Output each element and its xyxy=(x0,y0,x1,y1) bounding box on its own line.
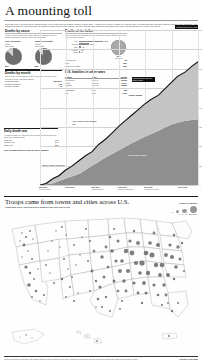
inset-hawaii xyxy=(76,331,102,343)
x-tick-label: Sept. 2005 xyxy=(178,186,187,188)
y-tick-label: 1,250 xyxy=(199,87,203,89)
us-map-svg xyxy=(2,213,200,333)
series-label-non-hostile: Non-hostile deaths xyxy=(128,154,146,156)
annotation-falluja: Falluja offensive drives toll sharply hi… xyxy=(132,77,156,82)
page-title: A mounting toll xyxy=(5,3,197,18)
x-tick-label: Mar. 2004 Falluja offensive xyxy=(92,186,104,190)
footer: Sources: Department of Defense; Iraq Coa… xyxy=(4,356,198,360)
annotation-baghdad-falls: Troop deaths rise after Baghdad falls xyxy=(72,120,100,125)
pace-stat-label-2: Monthly average xyxy=(5,85,19,88)
x-tick-label: Sept. 2004 Election of assembly xyxy=(118,186,133,190)
x-tick-text: Sept. 2003 xyxy=(65,186,74,188)
pie-chart-first xyxy=(5,48,22,65)
state-outlines xyxy=(12,218,192,317)
map-section: Troops came from towns and cities across… xyxy=(0,196,202,362)
credit-line: THE NEW YORK TIMES xyxy=(179,358,198,360)
insets-svg xyxy=(4,326,194,348)
map-insets xyxy=(4,326,194,348)
x-tick-label: Mar. 2003 Invasion begins xyxy=(39,186,51,190)
y-tick-label: 500 xyxy=(199,145,203,147)
pie-cell-first: First 1,000 deaths Hostile Non-hostile 8… xyxy=(5,40,31,67)
x-tick-text: Sept. 2005 xyxy=(178,186,187,188)
x-tick-sub: Constitution drafted xyxy=(144,188,159,190)
cumulative-deaths-chart: 0 250 500 750 1,000 1,250 1,500 1,750 2,… xyxy=(40,30,198,185)
inset-alaska xyxy=(12,329,44,344)
us-dot-map xyxy=(2,213,200,333)
chart-plot-area: 0 250 500 750 1,000 1,250 1,500 1,750 2,… xyxy=(40,30,198,185)
y-tick-label: 250 xyxy=(199,165,203,167)
y-tick-label: 2,000 deaths xyxy=(199,29,203,31)
chart-series-svg xyxy=(40,30,198,185)
daily-stat-label-2: Third year xyxy=(4,144,13,147)
map-legend-circles xyxy=(131,204,197,213)
x-tick-sub: Election of assembly xyxy=(118,188,133,190)
pie-legend-nonhostile-first: Non-hostile xyxy=(5,45,31,47)
annotation-2000th-death: 2,000th death Oct. 25, 2005 xyxy=(175,25,198,28)
deck-text: More than 2,000 American service members… xyxy=(0,21,202,28)
x-tick-sub: Falluja offensive xyxy=(92,188,104,190)
series-label-hostile: Hostile deaths xyxy=(128,94,142,96)
pie-value-first: 86% xyxy=(5,65,31,67)
x-tick-sub: Invasion begins xyxy=(39,188,51,190)
annotation-invasion-start: Start of invasion, March 2003 xyxy=(42,163,66,166)
y-tick-label: 1,500 xyxy=(199,68,203,70)
y-tick-label: 0 xyxy=(199,184,201,186)
y-tick-label: 1,750 xyxy=(199,48,203,50)
x-tick-label: Sept. 2003 xyxy=(65,186,74,188)
x-tick-label: Mar. 2005 Constitution drafted xyxy=(144,186,159,190)
masthead: A mounting toll xyxy=(0,0,202,18)
source-note: Sources: Department of Defense; Iraq Coa… xyxy=(4,358,175,360)
infographic-page: A mounting toll More than 2,000 American… xyxy=(0,0,202,362)
y-tick-label: 750 xyxy=(199,126,203,128)
y-tick-label: 1,000 xyxy=(199,107,203,109)
